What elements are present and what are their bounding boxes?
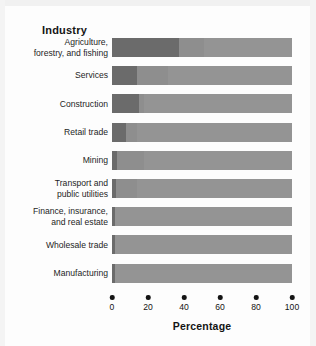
x-tick-marker — [110, 295, 115, 300]
x-tick-marker — [290, 295, 295, 300]
x-axis: 020406080100 — [112, 292, 292, 318]
figure-caption — [6, 340, 306, 346]
page-right-edge — [310, 0, 316, 346]
x-axis-title: Percentage — [112, 320, 292, 332]
bar-segment — [115, 235, 292, 254]
x-tick-label: 60 — [215, 302, 225, 312]
bar-row — [112, 151, 292, 170]
category-label: Wholesale trade — [8, 240, 108, 251]
bar-segment — [115, 207, 292, 226]
bar-row — [112, 264, 292, 283]
category-label: Retail trade — [8, 127, 108, 138]
bar-segment — [126, 123, 137, 142]
bar-row — [112, 66, 292, 85]
bar-segment — [117, 151, 144, 170]
x-tick-marker — [146, 295, 151, 300]
category-label: Manufacturing — [8, 268, 108, 279]
bar-row — [112, 94, 292, 113]
x-tick-label: 40 — [179, 302, 189, 312]
bar-segment — [137, 123, 292, 142]
bar-segment — [144, 94, 292, 113]
chart-title-industry: Industry — [42, 24, 87, 36]
bar-row — [112, 123, 292, 142]
category-label: Finance, insurance, and real estate — [8, 206, 108, 227]
bar-segment — [204, 38, 292, 57]
bar-row — [112, 38, 292, 57]
bar-row — [112, 235, 292, 254]
bar-segment — [112, 94, 139, 113]
x-tick-label: 0 — [110, 302, 115, 312]
x-tick-marker — [218, 295, 223, 300]
page-left-edge — [0, 0, 5, 346]
category-label: Construction — [8, 99, 108, 110]
category-label: Agriculture, forestry, and fishing — [8, 37, 108, 58]
figure-container: Industry Agriculture, forestry, and fish… — [0, 0, 316, 346]
bar-segment — [137, 179, 292, 198]
category-label: Services — [8, 70, 108, 81]
bar-segment — [112, 66, 137, 85]
bar-segment — [168, 66, 292, 85]
bar-segment — [144, 151, 292, 170]
x-tick-marker — [254, 295, 259, 300]
bar-row — [112, 179, 292, 198]
x-tick-marker — [182, 295, 187, 300]
bar-row — [112, 207, 292, 226]
x-tick-label: 100 — [285, 302, 299, 312]
category-label: Transport and public utilities — [8, 178, 108, 199]
category-axis-labels: Agriculture, forestry, and fishingServic… — [6, 38, 108, 292]
x-tick-label: 80 — [251, 302, 261, 312]
bar-segment — [137, 66, 168, 85]
bar-segment — [112, 123, 126, 142]
bar-segment — [179, 38, 204, 57]
bar-segment — [116, 179, 138, 198]
bar-segment — [112, 38, 179, 57]
category-label: Mining — [8, 155, 108, 166]
plot-area — [112, 38, 292, 292]
page-top-edge — [0, 0, 316, 6]
x-tick-label: 20 — [143, 302, 153, 312]
bar-segment — [115, 264, 292, 283]
